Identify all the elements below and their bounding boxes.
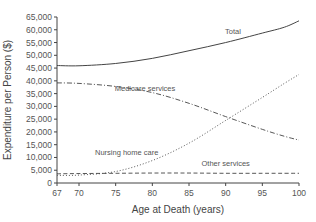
x-tick-label: 90: [221, 188, 231, 198]
x-axis: 67707580859095100: [52, 183, 306, 198]
line-chart: 05,00010,00015,00020,00025,00030,00035,0…: [0, 0, 316, 222]
series-lines: [57, 21, 299, 176]
x-tick-label: 85: [184, 188, 194, 198]
y-tick-label: 20,000: [26, 127, 52, 137]
y-tick-label: 5,000: [31, 165, 53, 175]
x-tick-label: 95: [258, 188, 268, 198]
x-tick-label: 80: [148, 188, 158, 198]
y-axis-title: Expenditure per Person ($): [2, 40, 13, 160]
x-tick-label: 70: [74, 188, 84, 198]
series-line-total: [57, 21, 299, 66]
y-tick-label: 15,000: [26, 140, 52, 150]
x-tick-label: 67: [52, 188, 62, 198]
x-tick-label: 100: [292, 188, 306, 198]
x-tick-label: 75: [111, 188, 121, 198]
series-label-nursing-home-care: Nursing home care: [95, 148, 158, 157]
y-tick-label: 40,000: [26, 76, 52, 86]
y-tick-label: 60,000: [26, 25, 52, 35]
series-label-other-services: Other services: [201, 159, 250, 168]
y-tick-label: 35,000: [26, 89, 52, 99]
series-line-nursing-home-care: [57, 74, 299, 175]
y-tick-label: 50,000: [26, 50, 52, 60]
y-tick-label: 0: [47, 178, 52, 188]
series-label-medicare-services: Medicare services: [115, 84, 176, 93]
y-tick-label: 65,000: [26, 12, 52, 22]
y-tick-label: 30,000: [26, 101, 52, 111]
y-tick-label: 25,000: [26, 114, 52, 124]
y-tick-label: 45,000: [26, 63, 52, 73]
series-label-total: Total: [225, 27, 241, 36]
series-labels: TotalMedicare servicesNursing home careO…: [95, 27, 250, 169]
series-line-other-services: [57, 173, 299, 174]
y-tick-label: 55,000: [26, 38, 52, 48]
y-tick-label: 10,000: [26, 152, 52, 162]
x-axis-title: Age at Death (years): [132, 204, 224, 215]
series-line-medicare-services: [57, 83, 299, 140]
y-axis: 05,00010,00015,00020,00025,00030,00035,0…: [26, 12, 57, 188]
